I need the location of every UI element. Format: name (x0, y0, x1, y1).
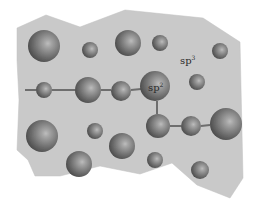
atom-sphere (87, 123, 103, 139)
atom-sphere (28, 30, 60, 62)
atom-sphere (111, 81, 131, 101)
atom-sphere (66, 151, 92, 177)
atom-sphere (210, 108, 242, 140)
atom-sphere (109, 133, 135, 159)
atom-sphere (181, 116, 201, 136)
atom-sphere (146, 114, 170, 138)
atomic-structure-diagram: sp3 sp2 (0, 0, 254, 204)
atom-sphere (147, 152, 163, 168)
atom-sphere (191, 161, 209, 179)
atom-sphere (152, 35, 168, 51)
bond-line (131, 89, 141, 90)
atom-sphere (36, 82, 52, 98)
atom-sphere (115, 30, 141, 56)
atom-sphere (82, 42, 98, 58)
bond-line (201, 125, 210, 126)
atom-sphere (75, 77, 101, 103)
atom-sphere (26, 120, 58, 152)
atom-sphere (212, 43, 228, 59)
atom-sphere (189, 74, 205, 90)
